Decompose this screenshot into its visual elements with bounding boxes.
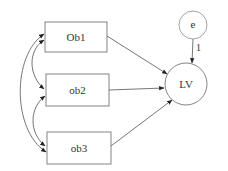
covariance-arcs	[20, 34, 46, 152]
path-diagram: 1 Ob1 ob2 ob3 LV e	[0, 0, 228, 171]
covariance-ob1-ob2	[32, 40, 44, 89]
path-e-lv	[192, 39, 193, 63]
path-ob2-lv	[109, 88, 164, 90]
observed-ob2: ob2	[46, 74, 109, 106]
path-label-e-lv: 1	[196, 42, 201, 53]
label-ob3: ob3	[71, 142, 88, 154]
label-ob2: ob2	[69, 84, 86, 96]
covariance-ob1-ob3	[20, 34, 46, 152]
path-ob1-lv	[107, 36, 167, 74]
label-ob1: Ob1	[67, 31, 86, 43]
observed-ob1: Ob1	[45, 22, 107, 52]
label-lv: LV	[179, 78, 193, 90]
latent-lv: LV	[165, 63, 207, 105]
error-e: e	[179, 11, 207, 39]
covariance-ob2-ob3	[33, 96, 45, 146]
label-e: e	[191, 18, 196, 30]
observed-ob3: ob3	[47, 132, 111, 164]
path-ob3-lv	[111, 100, 172, 146]
